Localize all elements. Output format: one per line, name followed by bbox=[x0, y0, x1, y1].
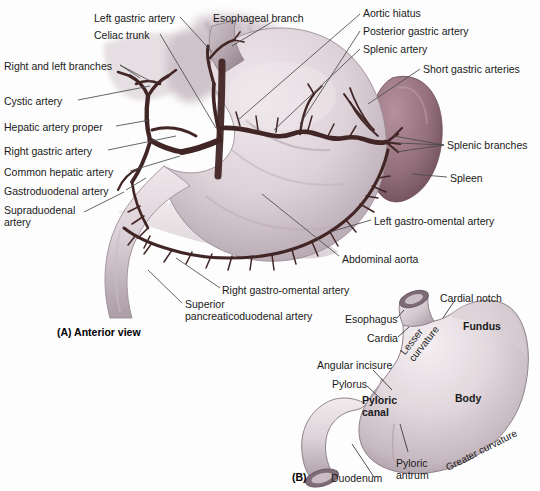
label-cardial-notch: Cardial notch bbox=[440, 292, 502, 304]
leader-right-gastro-omental-artery bbox=[176, 258, 220, 288]
label-hepatic-artery-proper: Hepatic artery proper bbox=[4, 121, 103, 133]
label-abdominal-aorta: Abdominal aorta bbox=[342, 253, 418, 265]
leader-right-branch-a bbox=[120, 65, 152, 82]
leader-common-hepatic-artery bbox=[130, 156, 180, 171]
leader-aortic-hiatus bbox=[238, 14, 360, 120]
label-esophagus: Esophagus bbox=[345, 313, 398, 325]
label-right-gastro-omental-artery: Right gastro-omental artery bbox=[222, 284, 349, 296]
leader-short-gastric-arteries bbox=[368, 69, 420, 104]
label-spleen: Spleen bbox=[450, 172, 483, 184]
label-celiac-trunk: Celiac trunk bbox=[94, 29, 149, 41]
label-splenic-branches: Splenic branches bbox=[447, 139, 528, 151]
label-posterior-gastric-artery: Posterior gastric artery bbox=[363, 25, 469, 37]
label-short-gastric-arteries: Short gastric arteries bbox=[423, 63, 520, 75]
label-pyloric-canal: Pyloric canal bbox=[362, 394, 397, 418]
label-left-gastric-artery: Left gastric artery bbox=[94, 12, 175, 24]
leader-left-gastro-omental-artery bbox=[330, 220, 371, 232]
label-supraduodenal-artery: Supraduodenal artery bbox=[4, 204, 75, 228]
label-common-hepatic-artery: Common hepatic artery bbox=[4, 166, 113, 178]
label-right-gastric-artery: Right gastric artery bbox=[4, 145, 92, 157]
label-cystic-artery: Cystic artery bbox=[4, 95, 62, 107]
leader-abdominal-aorta bbox=[262, 194, 339, 256]
figure-root: Left gastric arteryEsophageal branchAort… bbox=[0, 0, 540, 491]
leader-left-branch-a bbox=[120, 65, 140, 78]
label-angular-incisure: Angular incisure bbox=[317, 359, 392, 371]
label-duodenum: Duodenum bbox=[331, 472, 382, 484]
label-aortic-hiatus: Aortic hiatus bbox=[363, 7, 421, 19]
label-gastroduodenal-artery: Gastroduodenal artery bbox=[4, 185, 108, 197]
leader-cystic-artery bbox=[78, 86, 150, 100]
label-right-and-left-branches: Right and left branches bbox=[4, 60, 112, 72]
leader-gastroduodenal-artery bbox=[126, 178, 146, 190]
leader-celiac-trunk bbox=[160, 34, 216, 128]
label-esophageal-branch: Esophageal branch bbox=[213, 12, 304, 24]
label-body: Body bbox=[455, 392, 481, 404]
leader-superior-pancreaticoduodenal-artery bbox=[148, 270, 182, 303]
label-left-gastro-omental-artery: Left gastro-omental artery bbox=[374, 215, 494, 227]
label-pylorus: Pylorus bbox=[332, 378, 367, 390]
leader-hepatic-artery-proper bbox=[116, 120, 150, 126]
panel-a-tag: (A) Anterior view bbox=[57, 326, 141, 338]
label-cardia: Cardia bbox=[367, 332, 398, 344]
label-splenic-artery: Splenic artery bbox=[363, 43, 427, 55]
leader-spleen bbox=[412, 174, 447, 177]
leader-splenic-branches-3 bbox=[396, 145, 444, 152]
panel-b-tag: (B) bbox=[292, 471, 307, 483]
leader-esophageal-branch bbox=[232, 22, 272, 46]
leader-right-gastric-artery bbox=[108, 136, 176, 150]
label-fundus: Fundus bbox=[463, 320, 501, 332]
label-superior-pancreaticoduodenal-artery: Superior pancreaticoduodenal artery bbox=[185, 298, 312, 322]
leader-left-gastric-artery bbox=[180, 17, 212, 52]
label-pyloric-antrum: Pyloric antrum bbox=[396, 457, 429, 481]
leader-splenic-artery bbox=[274, 49, 360, 130]
